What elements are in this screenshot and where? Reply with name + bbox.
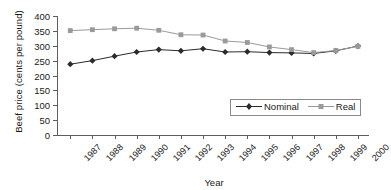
x-tick [203, 135, 204, 139]
x-tick [314, 135, 315, 139]
data-point [111, 53, 117, 59]
x-tick [92, 135, 93, 139]
data-point [134, 26, 139, 31]
legend-label-real: Real [336, 102, 356, 112]
data-point [112, 26, 117, 31]
legend-item-nominal[interactable]: Nominal [236, 102, 299, 112]
x-tick-label: 2000 [370, 142, 391, 163]
x-tick-label: 1988 [104, 142, 125, 163]
x-tick-label: 1994 [237, 142, 258, 163]
x-tick [292, 135, 293, 139]
data-point [156, 28, 161, 33]
chart-legend[interactable]: Nominal Real [230, 99, 361, 116]
x-tick-label: 1993 [215, 142, 236, 163]
data-point [67, 61, 73, 67]
y-tick-label: 250 [34, 55, 50, 66]
y-tick-label: 150 [34, 85, 50, 96]
x-tick-label: 1999 [348, 142, 369, 163]
data-point [178, 48, 184, 54]
y-tick-label: 50 [39, 115, 50, 126]
y-tick-label: 0 [45, 130, 50, 141]
data-point [266, 49, 272, 55]
y-tick-label: 300 [34, 40, 50, 51]
x-tick-label: 1989 [126, 142, 147, 163]
x-tick-label: 1990 [149, 142, 170, 163]
y-tick-label: 200 [34, 70, 50, 81]
x-tick [336, 135, 337, 139]
x-tick [225, 135, 226, 139]
series-layer [57, 16, 369, 135]
data-point [311, 50, 316, 55]
data-point [179, 32, 184, 37]
data-point [68, 28, 73, 33]
x-tick-label: 1987 [82, 142, 103, 163]
x-tick [137, 135, 138, 139]
x-tick [269, 135, 270, 139]
x-axis-title-text: Year [204, 177, 223, 188]
y-tick-label: 400 [34, 11, 50, 22]
data-point [222, 49, 228, 55]
data-point [200, 46, 206, 52]
y-tick [53, 135, 57, 136]
x-tick [181, 135, 182, 139]
data-point [333, 48, 338, 53]
x-tick-label: 1995 [259, 142, 280, 163]
data-point [201, 33, 206, 38]
legend-swatch-nominal-icon [236, 102, 262, 111]
legend-item-real[interactable]: Real [308, 102, 356, 112]
x-tick [358, 135, 359, 139]
legend-swatch-real-icon [308, 102, 334, 111]
x-tick [70, 135, 71, 139]
series-nominal [67, 43, 361, 67]
y-tick-label: 100 [34, 100, 50, 111]
data-point [156, 47, 162, 53]
plot-area: 050100150200250300350400 198719881989199… [57, 16, 369, 135]
data-point [244, 49, 250, 55]
legend-label-nominal: Nominal [264, 102, 299, 112]
data-point [356, 44, 361, 49]
x-axis-title: Year [0, 177, 384, 188]
y-tick-label: 350 [34, 25, 50, 36]
x-axis-line [57, 135, 369, 136]
data-point [90, 27, 95, 32]
x-tick-label: 1997 [303, 142, 324, 163]
x-tick-label: 1992 [193, 142, 214, 163]
x-tick [115, 135, 116, 139]
x-tick-label: 1991 [171, 142, 192, 163]
x-tick [159, 135, 160, 139]
data-point [89, 58, 95, 64]
x-tick-label: 1998 [326, 142, 347, 163]
x-tick [247, 135, 248, 139]
data-point [223, 39, 228, 44]
y-axis-title: Beef price (cents per pound) [13, 2, 24, 142]
data-point [245, 40, 250, 45]
data-point [267, 45, 272, 50]
data-point [289, 47, 294, 52]
data-point [134, 49, 140, 55]
series-line [70, 28, 358, 52]
x-tick-label: 1996 [281, 142, 302, 163]
